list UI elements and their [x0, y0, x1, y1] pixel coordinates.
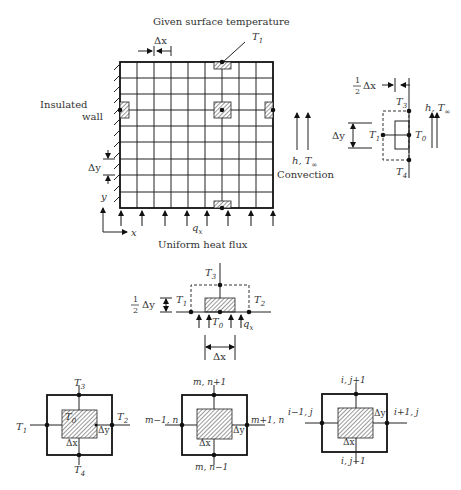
- svg-text:qx: qx: [243, 318, 253, 332]
- svg-text:i+1, j: i+1, j: [394, 407, 419, 417]
- svg-text:Δx: Δx: [199, 438, 211, 448]
- svg-text:Δy: Δy: [332, 130, 345, 141]
- svg-text:Δy: Δy: [98, 425, 110, 435]
- convection-arrows: h, T∞ Convection: [277, 113, 335, 180]
- svg-text:m−1, n: m−1, n: [145, 415, 179, 425]
- svg-text:T2: T2: [117, 411, 129, 425]
- top-title: Given surface temperature: [153, 16, 290, 27]
- svg-text:T1: T1: [369, 129, 380, 143]
- delta-x-dimension: Δx: [138, 35, 171, 56]
- svg-text:T0: T0: [415, 129, 427, 143]
- svg-text:x: x: [131, 227, 137, 238]
- svg-text:T1: T1: [16, 421, 27, 435]
- svg-text:m, n−1: m, n−1: [195, 462, 228, 472]
- bottom-title: Uniform heat flux: [158, 239, 248, 250]
- delta-y-dimension: Δy: [88, 150, 115, 184]
- svg-text:T2: T2: [254, 294, 266, 308]
- svg-text:m+1, n: m+1, n: [251, 415, 285, 425]
- grid-lines: [120, 62, 273, 208]
- svg-text:Δy: Δy: [233, 425, 245, 435]
- svg-text:Δx: Δx: [363, 80, 376, 91]
- svg-text:Δy: Δy: [142, 299, 155, 310]
- svg-text:qx: qx: [192, 222, 202, 236]
- svg-text:T1: T1: [252, 31, 263, 45]
- svg-text:h, T∞: h, T∞: [292, 155, 317, 169]
- svg-text:Δy: Δy: [374, 408, 386, 418]
- delta-x-label: Δx: [154, 35, 167, 46]
- svg-text:Convection: Convection: [277, 169, 335, 180]
- svg-text:i, j+1: i, j+1: [341, 375, 366, 385]
- svg-text:h, T∞: h, T∞: [425, 102, 450, 116]
- svg-text:T4: T4: [396, 166, 407, 180]
- svg-text:T3: T3: [396, 96, 408, 110]
- svg-text:i−1, j: i−1, j: [288, 407, 313, 417]
- svg-text:T3: T3: [205, 267, 217, 281]
- interior-node-ij: i, j+1 i−1, j i+1, j i, j−1 Δy Δx: [288, 375, 419, 466]
- svg-text:m, n+1: m, n+1: [193, 377, 226, 387]
- main-grid-section: Given surface temperature Δx T1: [40, 16, 335, 250]
- t1-surface-label: T1: [223, 31, 263, 62]
- insulated-label-2: wall: [82, 111, 103, 122]
- interior-node-mn: m, n+1 m−1, n m+1, n m, n−1 Δy Δx: [145, 377, 285, 472]
- svg-text:Δx: Δx: [343, 437, 355, 447]
- flux-node-detail: T3 T1 T2 T0 qx 1 2 Δy Δx: [131, 263, 271, 362]
- svg-text:T0: T0: [212, 316, 224, 330]
- interior-node-t: T3 T1 T2 T0 T4 Δy Δx: [16, 377, 130, 478]
- svg-text:T4: T4: [74, 464, 85, 478]
- svg-text:T3: T3: [74, 377, 86, 391]
- convection-node-detail: 1 2 Δx T3 T1 T0 T4 Δy h, T∞: [332, 76, 450, 180]
- svg-text:Δx: Δx: [213, 351, 226, 362]
- insulated-label-1: Insulated: [40, 99, 88, 110]
- svg-text:2: 2: [355, 87, 360, 96]
- grid-boundary: [120, 62, 273, 208]
- svg-text:1: 1: [133, 295, 138, 304]
- svg-text:Δy: Δy: [88, 162, 101, 173]
- svg-text:i, j−1: i, j−1: [341, 456, 366, 466]
- svg-text:T1: T1: [176, 294, 187, 308]
- svg-text:1: 1: [355, 76, 360, 85]
- svg-text:Δx: Δx: [66, 438, 78, 448]
- svg-text:y: y: [100, 191, 107, 202]
- finite-difference-diagram: Given surface temperature Δx T1: [0, 0, 461, 490]
- svg-text:2: 2: [133, 306, 138, 315]
